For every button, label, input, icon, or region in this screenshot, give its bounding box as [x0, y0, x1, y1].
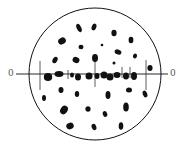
- diffraction-spot: [147, 65, 152, 71]
- diffraction-spot: [107, 74, 114, 81]
- diffraction-spot: [102, 110, 108, 117]
- diffraction-spot: [101, 44, 104, 47]
- diffraction-spot: [92, 54, 98, 62]
- diffraction-spot: [123, 73, 129, 80]
- diffraction-spot: [119, 122, 124, 130]
- diffraction-spot: [59, 104, 70, 115]
- diffraction-spot: [75, 74, 81, 81]
- diffraction-spot: [79, 45, 84, 50]
- diffraction-spot: [132, 53, 137, 59]
- diffraction-spot: [91, 23, 98, 31]
- diffraction-spot: [106, 91, 111, 99]
- diffraction-spot: [75, 23, 83, 33]
- axis-right-label: 0: [170, 69, 176, 78]
- diffraction-spot: [142, 90, 149, 98]
- diffraction-spot: [114, 72, 121, 78]
- diffraction-spot: [101, 72, 108, 79]
- diffraction-pattern: [0, 0, 184, 152]
- diffraction-spot: [123, 103, 129, 112]
- diffraction-spot: [114, 48, 122, 55]
- diffraction-spot: [85, 106, 90, 112]
- axis-left-label: 0: [8, 69, 14, 78]
- diffraction-spot: [44, 73, 52, 81]
- diffraction-spots: [42, 23, 153, 131]
- diffraction-spot: [86, 73, 93, 80]
- diffraction-spot: [70, 73, 74, 78]
- diffraction-spot: [113, 62, 116, 65]
- diffraction-spot: [55, 71, 64, 77]
- diffraction-spot: [72, 56, 81, 64]
- diffraction-spot: [95, 73, 100, 79]
- diffraction-spot: [129, 37, 134, 44]
- diffraction-spot: [51, 56, 58, 64]
- diffraction-spot: [59, 87, 64, 93]
- diffraction-spot: [111, 30, 116, 36]
- diffraction-spot: [65, 122, 74, 131]
- diffraction-spot: [42, 95, 46, 101]
- diffraction-spot: [91, 123, 98, 131]
- diffraction-spot: [57, 36, 67, 46]
- diffraction-spot: [75, 91, 79, 97]
- diffraction-spot: [131, 72, 137, 80]
- diffraction-spot: [126, 88, 132, 93]
